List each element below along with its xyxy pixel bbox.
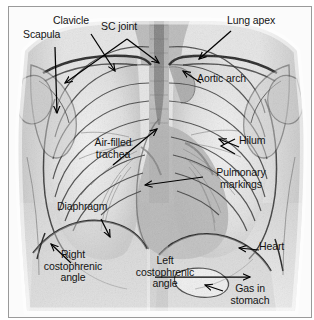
leader-sc-joint-a [127, 39, 159, 63]
label-scapula: Scapula [23, 29, 60, 41]
leader-sc-joint-b [65, 39, 127, 83]
leader-scapula [55, 47, 57, 113]
label-air-filled-trachea: Air-filled trachea [71, 137, 155, 160]
leader-diaphragm [101, 219, 110, 237]
leader-lung-apex [199, 31, 231, 59]
label-left-costophrenic-angle: Left costophrenic angle [121, 255, 209, 290]
label-aortic-arch: Aortic arch [197, 73, 246, 85]
leader-heart [239, 248, 259, 250]
label-gas-in-stomach: Gas in stomach [215, 283, 285, 306]
label-hilum: Hilum [239, 135, 265, 147]
label-heart: Heart [259, 241, 284, 253]
label-right-costophrenic-angle: Right costophrenic angle [25, 249, 121, 284]
leader-clavicle [91, 34, 115, 71]
label-sc-joint: SC joint [101, 21, 137, 33]
label-clavicle: Clavicle [53, 15, 89, 27]
chest-xray-image: Scapula Clavicle SC joint Lung apex Aort… [9, 7, 312, 318]
label-diaphragm: Diaphragm [57, 201, 107, 213]
label-pulmonary-markings: Pulmonary markings [195, 167, 287, 190]
label-lung-apex: Lung apex [227, 15, 275, 27]
figure-frame: Scapula Clavicle SC joint Lung apex Aort… [8, 6, 312, 318]
figure-root: Scapula Clavicle SC joint Lung apex Aort… [0, 0, 314, 320]
